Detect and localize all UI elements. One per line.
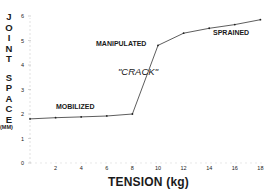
y-label-letter: I [8, 33, 11, 44]
data-point [132, 113, 134, 115]
x-tick-label: 16 [232, 165, 238, 171]
y-tick-label: 1 [21, 136, 24, 142]
y-tick-label: 0 [21, 160, 24, 166]
y-label-letter: C [6, 104, 13, 115]
joint-space-chart: 012345624681012141618MOBILIZEDMANIPULATE… [0, 0, 277, 192]
data-point [157, 45, 159, 47]
x-tick-label: 8 [131, 165, 134, 171]
x-tick-label: 18 [257, 165, 263, 171]
y-label-letter: P [6, 83, 12, 94]
y-tick-label: 4 [21, 62, 24, 68]
x-tick-label: 12 [181, 165, 187, 171]
annotation-manipulated: MANIPULATED [96, 40, 146, 47]
annotation-crack: "CRACK" [118, 66, 159, 77]
x-tick-label: 10 [155, 165, 161, 171]
y-tick-label: 3 [21, 87, 24, 93]
y-tick-label: 6 [21, 13, 24, 19]
x-tick-label: 14 [206, 165, 212, 171]
data-point [260, 19, 262, 21]
data-point [29, 118, 31, 120]
y-axis-unit: (MM) [0, 124, 13, 130]
y-label-letter: J [6, 12, 11, 23]
annotation-mobilized: MOBILIZED [56, 103, 95, 110]
y-label-letter: T [6, 54, 12, 65]
x-tick-label: 2 [54, 165, 57, 171]
data-point [80, 116, 82, 118]
x-axis-label: TENSION (kg) [108, 175, 189, 189]
data-point [106, 115, 108, 117]
y-axis-label: J O I N T S P A C E [3, 12, 15, 125]
data-point [208, 27, 210, 29]
data-point [234, 24, 236, 26]
x-tick-label: 6 [105, 165, 108, 171]
plot-area: 012345624681012141618MOBILIZEDMANIPULATE… [0, 0, 277, 192]
y-tick-label: 2 [21, 111, 24, 117]
y-tick-label: 5 [21, 38, 24, 44]
data-point [55, 117, 57, 119]
data-point [183, 32, 185, 34]
x-tick-label: 4 [80, 165, 83, 171]
annotation-sprained: SPRAINED [213, 29, 249, 36]
